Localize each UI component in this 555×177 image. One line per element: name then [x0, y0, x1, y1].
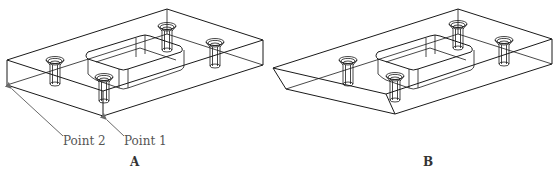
point-1-arrow: [107, 120, 124, 136]
diagram-canvas: [0, 0, 555, 177]
point-2-arrow: [12, 89, 63, 136]
point-2-label: Point 2: [63, 134, 106, 148]
figure-b-caption: B: [423, 155, 433, 169]
figure-b-part: [273, 9, 552, 114]
figure-a-caption: A: [130, 155, 139, 169]
figure-b-hole-4: [495, 37, 513, 67]
figure-a-part: [7, 9, 263, 116]
figure-b-top-face: [273, 9, 552, 94]
figure-b-hole-2: [386, 73, 404, 103]
point-1-label: Point 1: [124, 134, 167, 148]
figure-a-hole-3: [158, 23, 176, 53]
figure-b-hole-3: [449, 21, 467, 51]
figure-b-bottom-edges: [286, 64, 552, 114]
figure-a-hole-1: [46, 57, 64, 87]
